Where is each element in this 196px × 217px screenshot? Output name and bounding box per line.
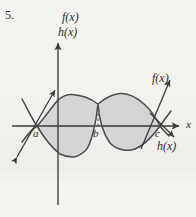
point-label-b: b: [93, 128, 99, 139]
problem-number: 5.: [5, 9, 14, 21]
curve-label-hx-right: h(x): [157, 140, 176, 152]
graph-canvas: [0, 0, 196, 217]
curve-label-hx-top: h(x): [58, 26, 77, 38]
curve-label-fx-right: f(x): [152, 72, 169, 84]
point-label-a: a: [33, 128, 39, 139]
shaded-region-bc: [98, 94, 160, 150]
point-label-c: c: [155, 128, 160, 139]
curve-label-fx-top: f(x): [62, 11, 79, 23]
axis-label-x: x: [186, 119, 191, 130]
textbook-figure: 5. f(x) h(x) f(x) h(x) x a b c: [0, 0, 196, 217]
